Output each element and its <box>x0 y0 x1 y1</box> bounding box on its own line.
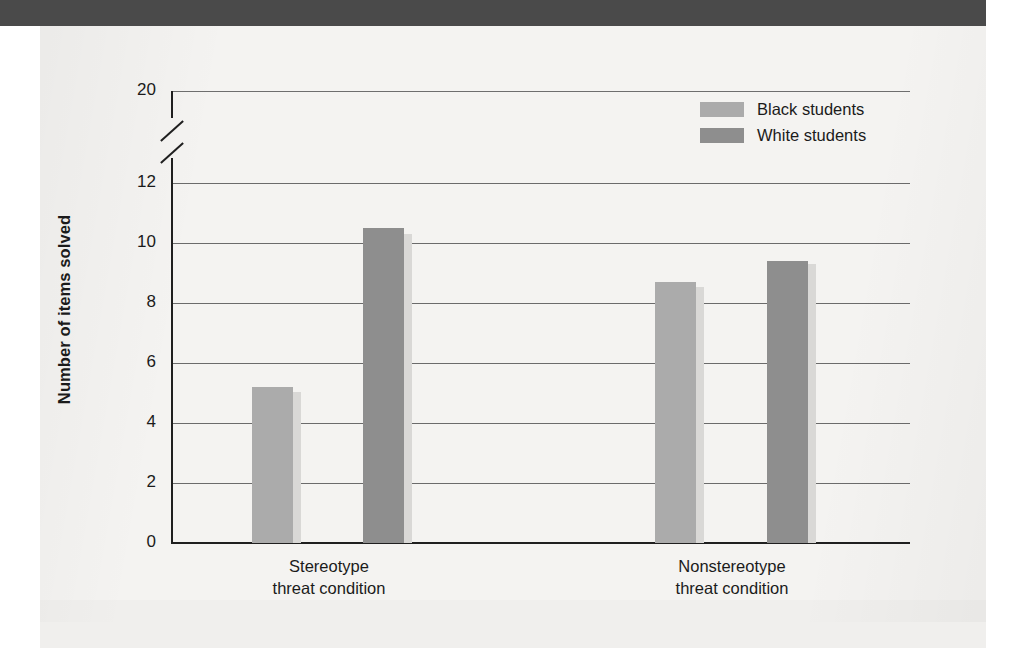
legend-label-black-students: Black students <box>757 100 864 119</box>
bar-black-students-nonstereotype <box>655 282 696 543</box>
y-axis-line-lower <box>171 152 173 544</box>
y-tick-label-12: 12 <box>112 172 156 192</box>
y-tick-label-20: 20 <box>112 80 156 100</box>
gridline-12 <box>172 183 910 184</box>
x-category-line-1: Stereotype <box>209 556 449 578</box>
gridline-10 <box>172 243 910 244</box>
bar-chart: Number of items solved 20 12 10 8 6 4 2 … <box>0 0 1021 648</box>
y-tick-label-8: 8 <box>112 292 156 312</box>
bar-white-students-stereotype <box>363 228 404 543</box>
x-category-label-nonstereotype: Nonstereotype threat condition <box>612 556 852 600</box>
bar-white-students-nonstereotype <box>767 261 808 543</box>
legend-item-black-students: Black students <box>700 96 930 122</box>
legend-swatch-black-students <box>700 102 744 117</box>
legend-label-white-students: White students <box>757 126 866 145</box>
gridline-20 <box>172 91 910 92</box>
bar-shadow-black-nonstereotype <box>696 287 704 543</box>
figure-page: Number of items solved 20 12 10 8 6 4 2 … <box>0 0 1021 648</box>
legend-item-white-students: White students <box>700 122 930 148</box>
y-axis-title: Number of items solved <box>55 180 74 440</box>
x-category-line-1: Nonstereotype <box>612 556 852 578</box>
y-tick-label-2: 2 <box>112 472 156 492</box>
legend-swatch-white-students <box>700 128 744 143</box>
y-tick-label-10: 10 <box>112 232 156 252</box>
bar-shadow-white-nonstereotype <box>808 264 816 543</box>
bar-shadow-white-stereotype <box>404 234 412 543</box>
x-category-line-2: threat condition <box>612 578 852 600</box>
bar-black-students-stereotype <box>252 387 293 543</box>
x-category-label-stereotype: Stereotype threat condition <box>209 556 449 600</box>
y-tick-label-6: 6 <box>112 352 156 372</box>
y-tick-label-0: 0 <box>112 532 156 552</box>
legend: Black students White students <box>700 96 930 148</box>
y-tick-label-4: 4 <box>112 412 156 432</box>
bar-shadow-black-stereotype <box>293 392 301 543</box>
x-category-line-2: threat condition <box>209 578 449 600</box>
